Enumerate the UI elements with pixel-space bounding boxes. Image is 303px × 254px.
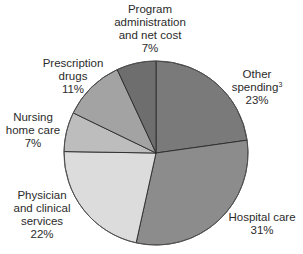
label-physician-clinical: Physician and clinical services 22% [10,189,74,241]
label-other-spending: Other spending3 23% [226,68,288,107]
label-program-administration: Program administration and net cost 7% [100,3,200,55]
label-text: spending [232,81,279,93]
label-text: Nursing [4,111,62,124]
label-percent: 11% [40,83,106,96]
label-percent: 22% [10,228,74,241]
label-text: Prescription [40,57,106,70]
footnote-marker: 3 [278,81,282,88]
label-text-with-footnote: spending3 [226,81,288,94]
label-text: services [10,215,74,228]
label-prescription-drugs: Prescription drugs 11% [40,57,106,96]
label-text: and clinical [10,202,74,215]
label-text: and net cost [100,29,200,42]
label-text: Hospital care [224,211,300,224]
label-text: Program [100,3,200,16]
label-percent: 7% [100,42,200,55]
label-text: Other [226,68,288,81]
label-nursing-home-care: Nursing home care 7% [4,111,62,150]
label-percent: 23% [226,94,288,107]
label-text: Physician [10,189,74,202]
label-text: administration [100,16,200,29]
label-text: drugs [40,70,106,83]
label-text: home care [4,124,62,137]
label-percent: 7% [4,137,62,150]
label-hospital-care: Hospital care 31% [224,211,300,237]
label-percent: 31% [224,224,300,237]
